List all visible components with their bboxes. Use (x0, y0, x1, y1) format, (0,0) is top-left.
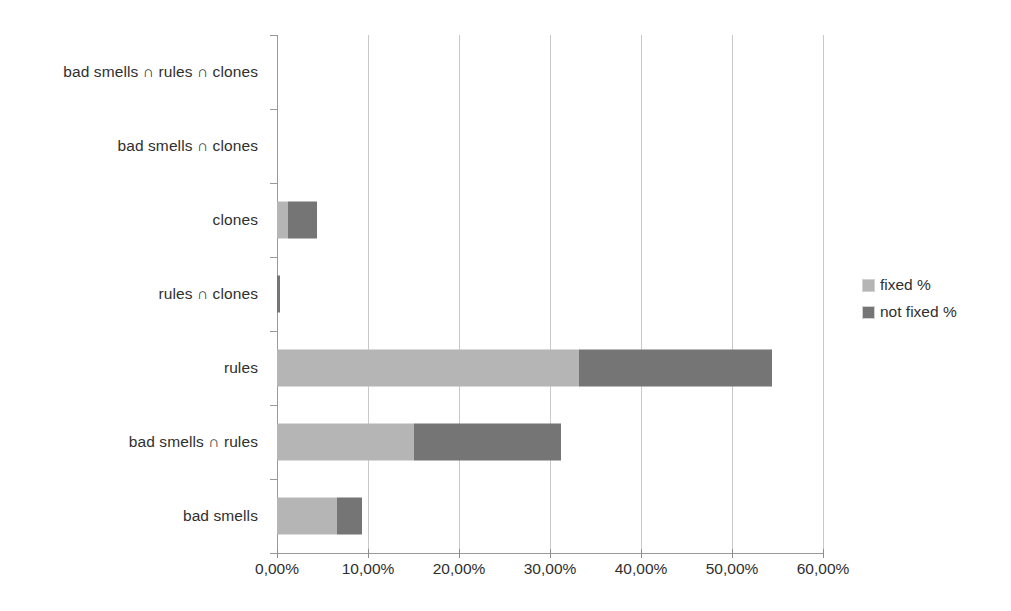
chart-legend: fixed %not fixed % (862, 276, 1002, 330)
bar-segment-fixed[interactable] (277, 350, 579, 387)
bar-segment-not-fixed[interactable] (288, 202, 317, 239)
bar-segment-fixed[interactable] (277, 202, 288, 239)
category-label: bad smells ∩ rules (0, 405, 268, 479)
x-axis-tick (823, 549, 824, 558)
bar-segment-not-fixed[interactable] (277, 276, 280, 313)
x-axis-tick-label: 50,00% (706, 560, 759, 578)
plot-area (277, 35, 823, 553)
bar-row (277, 183, 823, 257)
bar-segment-not-fixed[interactable] (337, 498, 362, 535)
y-axis-tick (270, 553, 277, 554)
y-axis-category-labels: bad smells ∩ rules ∩ clonesbad smells ∩ … (0, 35, 268, 553)
category-label: bad smells ∩ clones (0, 109, 268, 183)
legend-swatch-icon (862, 279, 875, 292)
bar-row (277, 479, 823, 553)
category-label: bad smells ∩ rules ∩ clones (0, 35, 268, 109)
x-axis-tick-labels: 0,00%10,00%20,00%30,00%40,00%50,00%60,00… (277, 560, 823, 584)
category-label: rules (0, 331, 268, 405)
y-axis-tick (270, 35, 277, 36)
bar-segment-fixed[interactable] (277, 424, 414, 461)
legend-label: fixed % (880, 276, 931, 294)
bar-stack[interactable] (277, 424, 561, 461)
chart-container: bad smells ∩ rules ∩ clonesbad smells ∩ … (0, 0, 1011, 611)
x-axis-tick-label: 30,00% (524, 560, 577, 578)
y-axis-tick (270, 479, 277, 480)
y-axis-tick (270, 109, 277, 110)
bar-stack[interactable] (277, 350, 772, 387)
bar-stack[interactable] (277, 276, 280, 313)
gridline (823, 35, 824, 553)
bar-row (277, 35, 823, 109)
bar-stack[interactable] (277, 202, 317, 239)
bar-row (277, 109, 823, 183)
y-axis-tick (270, 331, 277, 332)
bar-row (277, 405, 823, 479)
bar-segment-fixed[interactable] (277, 498, 337, 535)
bar-stack[interactable] (277, 498, 362, 535)
category-label: rules ∩ clones (0, 257, 268, 331)
bar-row (277, 257, 823, 331)
bar-segment-not-fixed[interactable] (414, 424, 561, 461)
legend-item[interactable]: fixed % (862, 276, 1002, 294)
category-label: bad smells (0, 479, 268, 553)
y-axis-tick (270, 257, 277, 258)
legend-swatch-icon (862, 306, 875, 319)
bar-segment-not-fixed[interactable] (579, 350, 772, 387)
legend-item[interactable]: not fixed % (862, 303, 1002, 321)
bar-rows (277, 35, 823, 553)
x-axis-tick-label: 20,00% (433, 560, 486, 578)
x-axis-tick-label: 10,00% (342, 560, 395, 578)
x-axis-tick-label: 60,00% (797, 560, 850, 578)
legend-label: not fixed % (880, 303, 957, 321)
bar-row (277, 331, 823, 405)
x-axis-tick-label: 40,00% (615, 560, 668, 578)
x-axis-tick-label: 0,00% (255, 560, 299, 578)
y-axis-tick (270, 183, 277, 184)
category-label: clones (0, 183, 268, 257)
y-axis-tick (270, 405, 277, 406)
